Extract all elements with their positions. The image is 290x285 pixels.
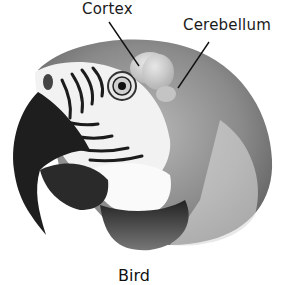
caption-bird: Bird [118,266,150,285]
brain-cortex-lobe [142,54,174,90]
brain-cerebellum [156,86,176,102]
label-cerebellum: Cerebellum [183,16,271,34]
label-cortex: Cortex [82,0,133,18]
